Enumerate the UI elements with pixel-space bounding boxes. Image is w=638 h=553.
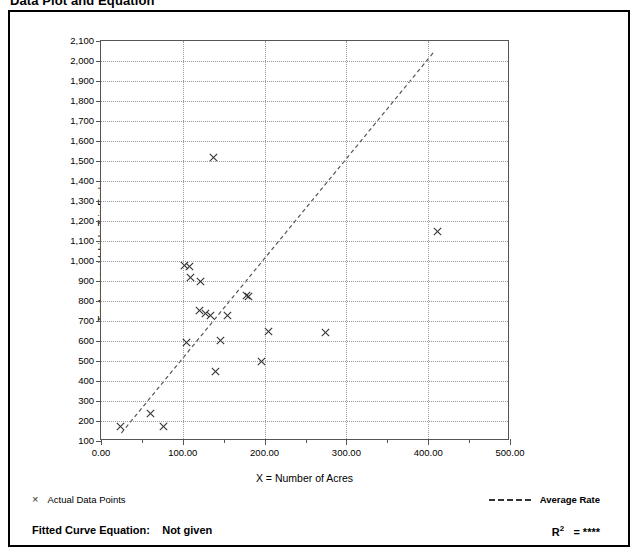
x-axis-tick-mark: [387, 439, 388, 443]
data-point-marker: [264, 327, 273, 336]
screenshot-root: Data Plot and Equation T = Average Vehic…: [0, 0, 638, 553]
y-axis-tick-mark: [96, 201, 101, 202]
gridline-horizontal: [101, 361, 508, 362]
y-axis-tick-label: 700: [78, 316, 94, 326]
plot-inner: [101, 41, 508, 439]
dashed-line-icon: [489, 499, 531, 501]
y-axis-tick-mark: [96, 181, 101, 182]
gridline-horizontal: [101, 341, 508, 342]
y-axis-tick-mark: [96, 301, 101, 302]
legend-average-rate: Average Rate: [489, 494, 600, 505]
y-axis-tick-label: 300: [78, 396, 94, 406]
y-axis-tick-mark: [96, 321, 101, 322]
gridline-horizontal: [101, 321, 508, 322]
data-point-marker: [185, 262, 194, 271]
gridline-horizontal: [101, 401, 508, 402]
legend-points-label: Actual Data Points: [47, 494, 125, 505]
legend-line-label: Average Rate: [540, 494, 600, 505]
legend-row-equation: Fitted Curve Equation: Not given R2 = **…: [10, 524, 628, 550]
legend-points: × Actual Data Points: [32, 494, 126, 505]
y-axis-tick-mark: [96, 381, 101, 382]
y-axis-tick-label: 500: [78, 356, 94, 366]
equation-value: Not given: [162, 524, 212, 536]
data-point-marker: [186, 273, 195, 282]
x-axis-tick-mark: [224, 439, 225, 443]
data-point-marker: [182, 338, 191, 347]
data-point-marker: [116, 422, 125, 431]
y-axis-tick-label: 1,400: [70, 176, 94, 186]
fitted-curve-equation: Fitted Curve Equation: Not given: [32, 524, 212, 536]
y-axis-tick-label: 1,100: [70, 236, 94, 246]
r2-exponent: 2: [560, 524, 564, 533]
data-point-marker: [257, 357, 266, 366]
x-axis-tick-mark: [265, 439, 266, 445]
r2-label: R: [552, 526, 560, 538]
gridline-horizontal: [101, 301, 508, 302]
y-axis-tick-label: 1,800: [70, 96, 94, 106]
y-axis-tick-mark: [96, 161, 101, 162]
y-axis-tick-label: 1,200: [70, 216, 94, 226]
legend-row-markers: × Actual Data Points Average Rate: [10, 494, 628, 520]
x-axis-tick-label: 100.00: [168, 448, 197, 458]
data-point-marker: [223, 311, 232, 320]
y-axis-tick-label: 100: [78, 436, 94, 446]
chart-card: T = Average Vehicle Trip Ends 1002003004…: [8, 10, 630, 547]
x-axis-tick-label: 300.00: [332, 448, 361, 458]
y-axis-tick-mark: [96, 61, 101, 62]
y-axis-tick-mark: [96, 81, 101, 82]
gridline-horizontal: [101, 181, 508, 182]
y-axis-tick-label: 600: [78, 336, 94, 346]
r-squared-value: R2 = ****: [552, 524, 600, 538]
y-axis-tick-mark: [96, 221, 101, 222]
y-axis-tick-label: 900: [78, 276, 94, 286]
gridline-horizontal: [101, 241, 508, 242]
gridline-horizontal: [101, 121, 508, 122]
data-point-marker: [196, 277, 205, 286]
y-axis-tick-label: 1,300: [70, 196, 94, 206]
gridline-vertical: [428, 41, 429, 439]
x-axis-tick-mark: [346, 439, 347, 445]
x-axis-tick-mark: [306, 439, 307, 443]
gridline-horizontal: [101, 381, 508, 382]
x-axis-tick-mark: [510, 439, 511, 445]
x-axis-tick-label: 500.00: [495, 448, 524, 458]
r2-value: = ****: [573, 526, 600, 538]
data-point-marker: [244, 292, 253, 301]
gridline-horizontal: [101, 61, 508, 62]
gridline-horizontal: [101, 201, 508, 202]
plot-area: 1002003004005006007008009001,0001,1001,2…: [100, 40, 509, 440]
data-point-marker: [321, 328, 330, 337]
gridline-horizontal: [101, 141, 508, 142]
data-point-marker: [216, 336, 225, 345]
x-axis-tick-mark: [142, 439, 143, 443]
x-axis-title: X = Number of Acres: [100, 472, 509, 484]
y-axis-tick-mark: [96, 41, 101, 42]
y-axis-tick-label: 1,000: [70, 256, 94, 266]
gridline-vertical: [265, 41, 266, 439]
y-axis-tick-label: 1,600: [70, 136, 94, 146]
x-axis-tick-mark: [101, 439, 102, 445]
x-axis-tick-label: 400.00: [414, 448, 443, 458]
gridline-vertical: [183, 41, 184, 439]
y-axis-tick-label: 1,700: [70, 116, 94, 126]
equation-label: Fitted Curve Equation:: [32, 524, 150, 536]
y-axis-tick-mark: [96, 141, 101, 142]
y-axis-tick-mark: [96, 421, 101, 422]
y-axis-tick-label: 1,900: [70, 76, 94, 86]
cross-marker-icon: ×: [32, 494, 38, 505]
y-axis-tick-mark: [96, 341, 101, 342]
x-axis-tick-mark: [469, 439, 470, 443]
x-axis-tick-mark: [428, 439, 429, 445]
y-axis-tick-mark: [96, 261, 101, 262]
gridline-horizontal: [101, 101, 508, 102]
y-axis-tick-label: 2,100: [70, 36, 94, 46]
gridline-horizontal: [101, 281, 508, 282]
y-axis-tick-label: 400: [78, 376, 94, 386]
y-axis-tick-mark: [96, 121, 101, 122]
x-axis-tick-label: 200.00: [250, 448, 279, 458]
y-axis-tick-label: 800: [78, 296, 94, 306]
y-axis-tick-label: 200: [78, 416, 94, 426]
gridline-horizontal: [101, 81, 508, 82]
y-axis-tick-mark: [96, 281, 101, 282]
data-point-marker: [206, 311, 215, 320]
